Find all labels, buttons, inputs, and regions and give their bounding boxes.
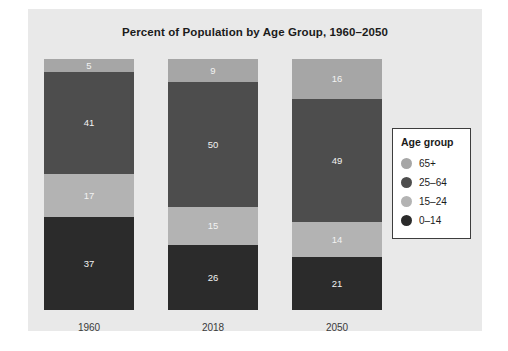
x-tick-label-2018: 2018 (168, 322, 258, 333)
x-tick-label-2050: 2050 (292, 322, 382, 333)
bar-segment-value: 16 (332, 74, 343, 84)
bar-segment-value: 5 (86, 61, 91, 71)
bar-segment-value: 14 (332, 235, 343, 245)
bar-group-2050: 16 49 14 21 2050 (292, 49, 382, 319)
legend-swatch-icon (401, 196, 412, 207)
bar-segment-15-24[interactable]: 15 (168, 207, 258, 245)
bar-segment-value: 26 (208, 273, 219, 283)
bar-segment-value: 21 (332, 279, 343, 289)
bar-group-2018: 9 50 15 26 2018 (168, 49, 258, 319)
legend-item-15-24[interactable]: 15–24 (401, 192, 462, 211)
bar-segment-25-64[interactable]: 49 (292, 99, 382, 222)
bar-segment-15-24[interactable]: 17 (44, 174, 134, 217)
legend: Age group 65+ 25–64 15–24 0–14 (392, 128, 471, 239)
bar-segment-25-64[interactable]: 41 (44, 72, 134, 175)
bar-segment-value: 17 (84, 191, 95, 201)
legend-item-0-14[interactable]: 0–14 (401, 211, 462, 230)
bar-stack[interactable]: 16 49 14 21 (292, 59, 382, 310)
bar-group-1960: 5 41 17 37 1960 (44, 49, 134, 319)
legend-swatch-icon (401, 215, 412, 226)
bar-segment-value: 50 (208, 140, 219, 150)
bar-segment-0-14[interactable]: 21 (292, 257, 382, 310)
legend-item-25-64[interactable]: 25–64 (401, 173, 462, 192)
chart-title: Percent of Population by Age Group, 1960… (28, 26, 482, 38)
legend-item-label: 15–24 (419, 196, 447, 207)
chart-panel: Percent of Population by Age Group, 1960… (28, 9, 482, 331)
bar-segment-value: 15 (208, 221, 219, 231)
legend-swatch-icon (401, 177, 412, 188)
bar-segment-0-14[interactable]: 26 (168, 245, 258, 310)
bar-segment-value: 41 (84, 118, 95, 128)
bar-segment-value: 49 (332, 156, 343, 166)
x-tick-label-1960: 1960 (44, 322, 134, 333)
bar-segment-0-14[interactable]: 37 (44, 217, 134, 310)
bar-stack[interactable]: 5 41 17 37 (44, 59, 134, 310)
bar-segment-25-64[interactable]: 50 (168, 82, 258, 208)
bar-segment-65plus[interactable]: 5 (44, 59, 134, 72)
bar-stack[interactable]: 9 50 15 26 (168, 59, 258, 310)
legend-title: Age group (401, 136, 462, 148)
legend-item-label: 65+ (419, 158, 436, 169)
bar-segment-65plus[interactable]: 9 (168, 59, 258, 82)
bar-segment-65plus[interactable]: 16 (292, 59, 382, 99)
bar-segment-15-24[interactable]: 14 (292, 222, 382, 257)
legend-item-label: 0–14 (419, 215, 441, 226)
legend-item-label: 25–64 (419, 177, 447, 188)
bar-segment-value: 37 (84, 259, 95, 269)
legend-swatch-icon (401, 158, 412, 169)
bar-segment-value: 9 (210, 66, 215, 76)
legend-item-65plus[interactable]: 65+ (401, 154, 462, 173)
figure-canvas: Percent of Population by Age Group, 1960… (0, 0, 508, 351)
